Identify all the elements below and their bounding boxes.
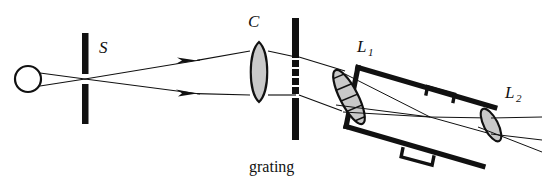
collimator-lens-C <box>251 42 268 102</box>
grating-frame-upper <box>292 18 299 58</box>
objective-label-subscript: 1 <box>368 46 374 58</box>
diffraction-grating <box>292 18 299 140</box>
grating-rule-3 <box>292 78 299 85</box>
grating-rule-2 <box>292 69 299 76</box>
collimator-label: C <box>248 12 260 31</box>
light-source-circle <box>15 66 41 92</box>
grating-rule-1 <box>292 60 299 67</box>
eyepiece-label-subscript: 2 <box>516 92 522 104</box>
grating-frame-lower <box>292 98 299 140</box>
slit-jaw-lower <box>82 84 89 124</box>
ray-diagram-canvas: S C grating <box>0 0 545 183</box>
collimator-lens-body <box>251 42 268 102</box>
diagram-background <box>0 0 545 183</box>
grating-label: grating <box>249 158 294 176</box>
eyepiece-label: L <box>504 83 514 102</box>
slit-label: S <box>99 38 108 57</box>
optical-diagram: S C grating <box>0 0 545 183</box>
objective-label: L <box>356 37 366 56</box>
slit-jaw-upper <box>82 33 89 74</box>
grating-rule-4 <box>292 87 299 94</box>
